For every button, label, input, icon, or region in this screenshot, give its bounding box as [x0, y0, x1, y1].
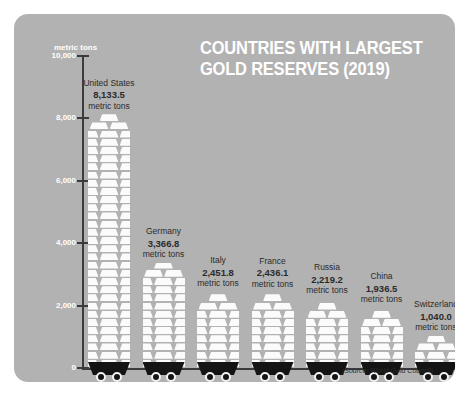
y-tick-label: 10,000 [52, 51, 76, 60]
bar-group[interactable]: France2,436.1metric tons [252, 286, 294, 382]
gold-ingot [154, 343, 173, 350]
gold-ingot [306, 327, 317, 334]
mine-cart-icon [197, 362, 239, 382]
ingot-row [197, 327, 239, 334]
gold-ingot [100, 319, 119, 326]
gold-ingot [197, 352, 208, 359]
bar-unit: metric tons [83, 101, 134, 113]
gold-ingot [88, 303, 99, 310]
bar-label: China1,936.5metric tons [361, 271, 403, 306]
gold-ingot [154, 352, 173, 359]
ingot-row [427, 336, 446, 343]
cart-wheel-right [439, 372, 449, 382]
gold-ingot [100, 229, 119, 236]
gold-ingot [90, 122, 109, 129]
gold-reserves-infographic: COUNTRIES WITH LARGEST GOLD RESERVES (20… [0, 0, 469, 396]
gold-ingot [88, 204, 99, 211]
gold-ingot [143, 319, 154, 326]
mine-cart-icon [143, 362, 185, 382]
ingot-row [88, 245, 130, 252]
gold-ingot [174, 352, 185, 359]
gold-ingot [382, 319, 401, 326]
ingot-row [252, 352, 294, 359]
bar-group[interactable]: Switzerland1,040.0metric tons [415, 330, 455, 382]
gold-ingot [143, 311, 154, 318]
ingot-row [88, 204, 130, 211]
ingot-row [308, 311, 347, 318]
gold-ingot [229, 343, 240, 350]
gold-ingot [88, 196, 99, 203]
ingot-row [88, 237, 130, 244]
bar-value: 2,451.8 [197, 267, 239, 279]
ingot-row [88, 180, 130, 187]
bar-label: Switzerland1,040.0metric tons [414, 299, 455, 334]
gold-ingot [100, 180, 119, 187]
ingot-row [197, 319, 239, 326]
bar-unit: metric tons [197, 278, 239, 290]
bar-label: Germany3,366.8metric tons [143, 226, 185, 261]
gold-ingot [88, 180, 99, 187]
gold-ingot [120, 131, 131, 138]
ingot-row [372, 311, 391, 318]
gold-ingot [120, 229, 131, 236]
bar-label: United States8,133.5metric tons [83, 78, 134, 113]
bar-country-name: China [361, 271, 403, 283]
gold-ingot [174, 335, 185, 342]
gold-ingot [174, 343, 185, 350]
gold-ingot [143, 343, 154, 350]
gold-ingot [338, 343, 349, 350]
bar-unit: metric tons [414, 322, 455, 334]
gold-ingot [88, 352, 99, 359]
gold-ingot [361, 352, 372, 359]
bar-country-name: Russia [306, 262, 348, 274]
gold-ingot [120, 319, 131, 326]
gold-bar-stack [197, 292, 239, 368]
gold-ingot [88, 221, 99, 228]
bar-unit: metric tons [252, 279, 294, 291]
gold-ingot [174, 327, 185, 334]
gold-ingot [318, 335, 337, 342]
bar-label: France2,436.1metric tons [252, 256, 294, 291]
gold-ingot [143, 278, 154, 285]
gold-ingot [88, 155, 99, 162]
gold-bar-stack [361, 308, 403, 368]
cart-body [88, 362, 130, 375]
gold-ingot [229, 352, 240, 359]
ingot-row [143, 294, 185, 301]
gold-bar-stack [88, 114, 130, 368]
gold-ingot [209, 294, 228, 301]
bar-group[interactable]: Italy2,451.8metric tons [197, 286, 239, 382]
source-note: (Source: World Gold Council) [342, 367, 433, 374]
gold-ingot [100, 335, 119, 342]
gold-ingot [372, 311, 391, 318]
gold-ingot [283, 343, 294, 350]
ingot-row [88, 327, 130, 334]
ingot-row [88, 303, 130, 310]
y-tick-label: 4,000 [56, 238, 76, 247]
gold-ingot [88, 172, 99, 179]
gold-ingot [154, 327, 173, 334]
gold-ingot [100, 253, 119, 260]
bar-group[interactable]: Germany3,366.8metric tons [143, 257, 185, 382]
ingot-row [144, 270, 183, 277]
ingot-row [100, 114, 119, 121]
bar-unit: metric tons [143, 249, 185, 261]
ingot-row [197, 352, 239, 359]
gold-ingot [120, 180, 131, 187]
gold-ingot [164, 270, 183, 277]
gold-ingot [229, 335, 240, 342]
ingot-row [252, 343, 294, 350]
gold-ingot [100, 114, 119, 121]
bar-value: 2,436.1 [252, 267, 294, 279]
bar-group[interactable]: United States8,133.5metric tons [88, 108, 130, 382]
ingot-row [253, 303, 292, 310]
gold-ingot [308, 311, 327, 318]
gold-ingot [209, 343, 228, 350]
gold-ingot [100, 237, 119, 244]
gold-ingot [154, 335, 173, 342]
ingot-row [361, 327, 403, 334]
gold-ingot [88, 147, 99, 154]
gold-ingot [120, 335, 131, 342]
bar-value: 1,040.0 [414, 311, 455, 323]
gold-ingot [283, 327, 294, 334]
